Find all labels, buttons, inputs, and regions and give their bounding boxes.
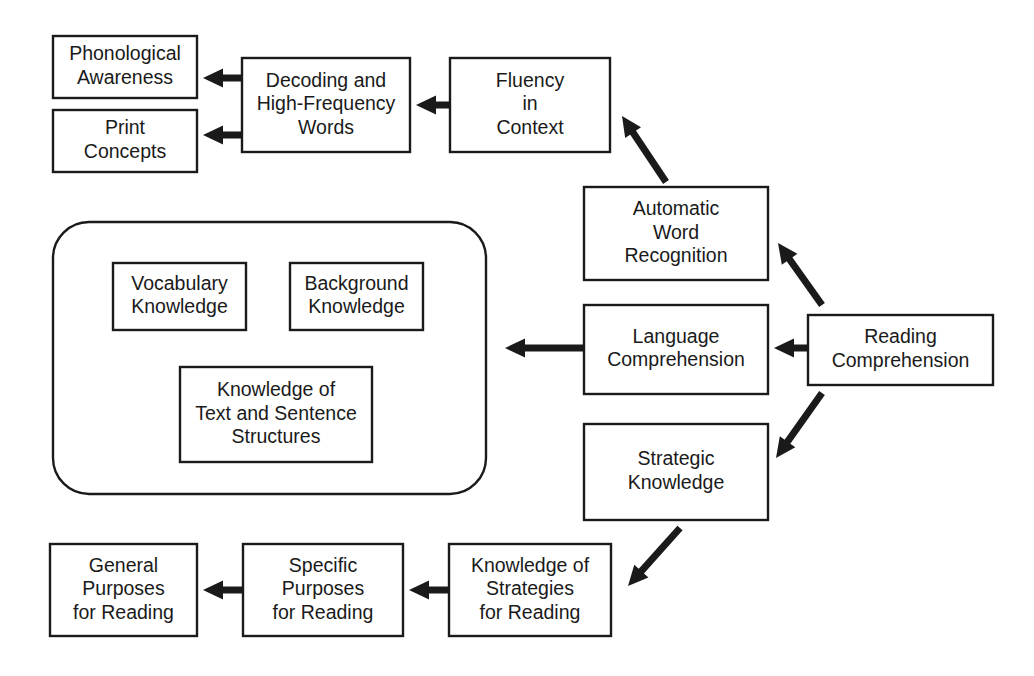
node-strategic-knowledge: StrategicKnowledge <box>584 424 768 520</box>
node-label-line: Vocabulary <box>131 272 228 294</box>
arrow-head-icon <box>203 581 223 600</box>
arrow-edge-reading-comprehension-to-automatic-word-recognition <box>778 243 822 305</box>
node-label-line: for Reading <box>480 601 581 623</box>
node-specific-purposes-for-reading: SpecificPurposesfor Reading <box>243 544 403 636</box>
node-label-line: Print <box>105 116 146 138</box>
node-label-line: Knowledge of <box>217 378 336 400</box>
arrow-head-icon <box>774 339 794 358</box>
node-knowledge-of-strategies-for-reading: Knowledge ofStrategiesfor Reading <box>449 544 611 636</box>
node-label-line: in <box>522 92 537 114</box>
node-label-line: Fluency <box>496 69 565 91</box>
arrow-edge-fluency-to-decoding <box>416 96 450 115</box>
node-label-line: for Reading <box>73 601 174 623</box>
node-label-line: General <box>89 554 158 576</box>
node-label-line: Awareness <box>77 66 173 88</box>
arrow-head-icon <box>203 126 223 145</box>
node-label-line: Automatic <box>633 197 720 219</box>
node-label-line: Context <box>496 116 564 138</box>
node-label-line: for Reading <box>273 601 374 623</box>
node-automatic-word-recognition: AutomaticWordRecognition <box>584 187 768 280</box>
arrow-edge-specific-purposes-to-general-purposes <box>203 581 243 600</box>
reading-model-diagram: PhonologicalAwarenessPrintConceptsDecodi… <box>0 0 1034 676</box>
node-label-line: Strategic <box>638 447 715 469</box>
node-label-line: Knowledge <box>308 295 405 317</box>
node-label-line: Recognition <box>625 244 728 266</box>
node-label-line: Words <box>298 116 354 138</box>
node-knowledge-of-text-and-sentence-structures: Knowledge ofText and SentenceStructures <box>180 367 372 462</box>
arrow-edge-language-comprehension-to-group <box>505 339 584 358</box>
node-label-line: Strategies <box>486 577 574 599</box>
arrow-head-icon <box>203 69 223 88</box>
node-label-line: Concepts <box>84 140 167 162</box>
node-label-line: Word <box>653 221 699 243</box>
arrow-shaft <box>640 528 680 573</box>
node-label-line: Knowledge of <box>471 554 590 576</box>
node-label-line: High-Frequency <box>257 92 396 114</box>
node-label-line: Purposes <box>82 577 165 599</box>
node-label-line: Reading <box>864 325 937 347</box>
arrow-edge-reading-comprehension-to-language-comprehension <box>774 339 808 358</box>
diagram-root: PhonologicalAwarenessPrintConceptsDecodi… <box>0 0 1034 676</box>
arrow-edge-knowledge-of-strategies-to-specific-purposes <box>409 581 449 600</box>
arrow-edge-decoding-to-phonological-awareness <box>203 69 242 88</box>
arrow-head-icon <box>409 581 429 600</box>
node-vocabulary-knowledge: VocabularyKnowledge <box>113 263 246 330</box>
node-label-line: Language <box>633 325 720 347</box>
node-language-comprehension: LanguageComprehension <box>584 305 768 394</box>
node-background-knowledge: BackgroundKnowledge <box>290 263 423 330</box>
node-phonological-awareness: PhonologicalAwareness <box>53 36 197 98</box>
node-label-line: Text and Sentence <box>195 402 357 424</box>
node-reading-comprehension: ReadingComprehension <box>808 315 993 385</box>
node-decoding-and-high-frequency-words: Decoding andHigh-FrequencyWords <box>242 58 410 152</box>
node-label-line: Background <box>304 272 408 294</box>
node-label-line: Purposes <box>282 577 365 599</box>
arrow-shaft <box>788 258 822 305</box>
node-label-line: Structures <box>232 425 321 447</box>
node-label-line: Phonological <box>69 42 181 64</box>
node-label-line: Knowledge <box>131 295 228 317</box>
arrow-edge-strategic-knowledge-to-knowledge-of-strategies <box>628 528 680 586</box>
node-fluency-in-context: FluencyinContext <box>450 58 610 152</box>
node-print-concepts: PrintConcepts <box>53 110 197 172</box>
node-general-purposes-for-reading: GeneralPurposesfor Reading <box>50 544 197 636</box>
arrow-shaft <box>786 393 822 443</box>
node-label-line: Specific <box>289 554 358 576</box>
arrow-edge-reading-comprehension-to-strategic-knowledge <box>776 393 822 458</box>
arrow-edge-decoding-to-print-concepts <box>203 126 242 145</box>
arrow-head-icon <box>505 339 525 358</box>
node-label-line: Comprehension <box>607 348 745 370</box>
node-label-line: Decoding and <box>266 69 386 91</box>
node-label-line: Comprehension <box>832 349 970 371</box>
arrow-edge-automatic-word-recognition-to-fluency <box>622 116 666 182</box>
arrow-shaft <box>632 131 666 182</box>
arrow-head-icon <box>416 96 436 115</box>
node-label-line: Knowledge <box>628 471 725 493</box>
